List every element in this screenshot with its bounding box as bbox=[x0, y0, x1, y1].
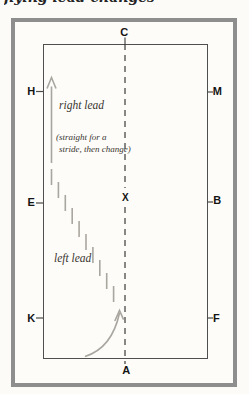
change-note-line2: stride, then change) bbox=[59, 144, 131, 156]
straight-arrow bbox=[47, 78, 56, 164]
curved-entry-arrow bbox=[85, 311, 124, 357]
arena-letter-k: K bbox=[24, 313, 38, 324]
arena-letter-c: C bbox=[117, 27, 131, 38]
right-lead-label: right lead bbox=[59, 99, 104, 111]
arena-letter-f: F bbox=[209, 313, 223, 324]
arena-letter-m: M bbox=[210, 86, 224, 97]
left-lead-label: left lead bbox=[54, 252, 91, 264]
arena-letter-b: B bbox=[210, 195, 224, 206]
scanned-diagram-page: flying lead changes bbox=[0, 0, 249, 394]
arena-letter-e: E bbox=[24, 197, 38, 208]
stride-dash-marks bbox=[52, 169, 114, 302]
change-note-line1: (straight for a bbox=[56, 132, 107, 144]
arena-letter-h: H bbox=[24, 86, 38, 97]
arena-letter-a: A bbox=[119, 365, 133, 376]
arena-letter-x: X bbox=[118, 192, 132, 203]
